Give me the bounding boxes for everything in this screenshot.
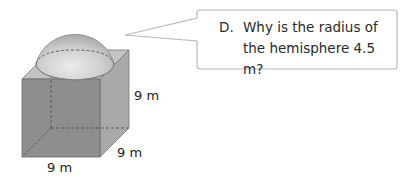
- hemisphere: [36, 34, 114, 80]
- callout-question: D. Why is the radius of the hemisphere 4…: [219, 17, 394, 80]
- width-label: 9 m: [47, 160, 72, 175]
- question-line-2: the hemisphere 4.5 m?: [219, 38, 394, 80]
- depth-label: 9 m: [117, 145, 142, 160]
- height-label: 9 m: [134, 88, 159, 103]
- question-line-1: Why is the radius of: [243, 17, 378, 38]
- question-letter: D.: [219, 17, 243, 38]
- cube-front-face: [22, 79, 100, 157]
